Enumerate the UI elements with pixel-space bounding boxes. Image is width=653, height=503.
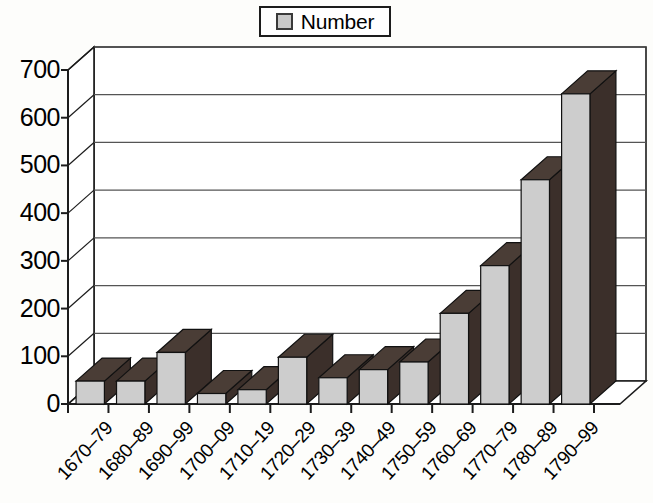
x-axis-labels: 1670–791680–891690–991700–091710–191720–… [0, 0, 653, 503]
bar-chart: Number 0100200300400500600700 1670–79168… [0, 0, 653, 503]
